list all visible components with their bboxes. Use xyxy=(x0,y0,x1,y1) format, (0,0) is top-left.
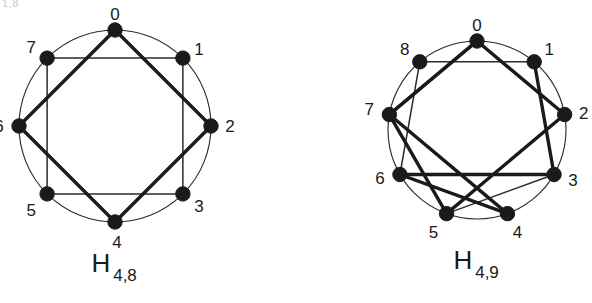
vertex-label-H_4_9-2: 2 xyxy=(579,104,588,123)
vertex-label-H_4_9-8: 8 xyxy=(400,40,409,59)
vertex-label-H_4_9-7: 7 xyxy=(365,100,374,119)
vertex-H_4_9-1 xyxy=(527,55,541,69)
graph-circle xyxy=(388,41,566,219)
vertex-label-H_4_9-0: 0 xyxy=(472,16,481,35)
vertex-H_4_8-2 xyxy=(204,119,218,133)
vertex-label-H_4_8-7: 7 xyxy=(26,38,35,57)
edge-thick-5-7 xyxy=(389,115,446,214)
graph-label-main-H_4_8: H xyxy=(92,248,111,278)
vertex-H_4_8-1 xyxy=(176,51,190,65)
graph-H_4_8: 01234567H4,8 xyxy=(0,5,235,285)
vertex-label-H_4_8-2: 2 xyxy=(225,117,234,136)
vertex-label-H_4_9-5: 5 xyxy=(429,223,438,242)
vertex-H_4_9-4 xyxy=(500,206,514,220)
edge-thin-8-6 xyxy=(400,62,420,175)
edge-thick-7-4 xyxy=(389,115,507,214)
vertex-H_4_9-0 xyxy=(470,34,484,48)
graph-label-sub-H_4_9: 4,9 xyxy=(475,263,499,282)
graph-label-main-H_4_9: H xyxy=(454,245,473,275)
vertex-label-H_4_8-6: 6 xyxy=(0,117,4,136)
figure-root: 1,8 01234567H4,8012345678H4,9 xyxy=(0,0,592,303)
vertex-H_4_8-5 xyxy=(40,187,54,201)
vertex-label-H_4_8-0: 0 xyxy=(110,5,119,24)
vertex-H_4_9-3 xyxy=(547,167,561,181)
vertex-H_4_9-6 xyxy=(393,167,407,181)
vertex-H_4_8-3 xyxy=(176,187,190,201)
vertex-label-H_4_9-3: 3 xyxy=(568,171,577,190)
vertex-H_4_9-5 xyxy=(439,206,453,220)
vertex-label-H_4_8-1: 1 xyxy=(194,40,203,59)
vertex-label-H_4_9-4: 4 xyxy=(513,223,522,242)
vertex-label-H_4_9-1: 1 xyxy=(544,40,553,59)
graph-label-sub-H_4_8: 4,8 xyxy=(113,266,137,285)
vertex-H_4_9-7 xyxy=(382,107,396,121)
circulant-graph-figure: 01234567H4,8012345678H4,9 xyxy=(0,0,592,303)
vertex-label-H_4_8-4: 4 xyxy=(112,233,121,252)
vertex-H_4_9-2 xyxy=(557,107,571,121)
vertex-H_4_8-6 xyxy=(12,119,26,133)
vertex-label-H_4_9-6: 6 xyxy=(375,169,384,188)
vertex-H_4_8-7 xyxy=(40,51,54,65)
graph-H_4_9: 012345678H4,9 xyxy=(365,16,589,282)
vertex-label-H_4_8-5: 5 xyxy=(26,201,35,220)
vertex-H_4_8-4 xyxy=(108,215,122,229)
edge-thick-3-1 xyxy=(534,62,554,175)
vertex-label-H_4_8-3: 3 xyxy=(194,197,203,216)
vertex-H_4_8-0 xyxy=(108,23,122,37)
vertex-H_4_9-8 xyxy=(413,55,427,69)
